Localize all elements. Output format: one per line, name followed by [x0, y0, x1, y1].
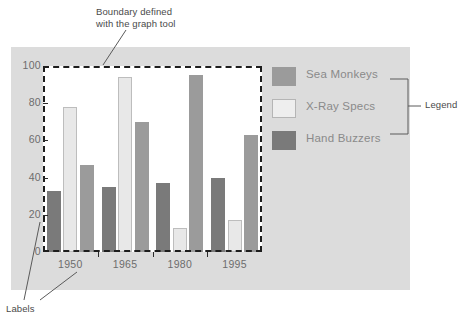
y-tick-label: 20 — [15, 208, 41, 220]
annotation-labels-text: Labels — [6, 303, 35, 315]
y-axis: 020406080100 — [9, 0, 41, 325]
chart-figure: 020406080100 1950196519801995 Sea Monkey… — [0, 0, 471, 325]
y-tick-label: 100 — [15, 59, 41, 71]
bar — [156, 183, 170, 252]
bar-series-container — [43, 66, 262, 252]
bar — [63, 107, 77, 252]
x-tick-mark — [207, 252, 208, 257]
bar — [228, 220, 242, 252]
y-tick-mark — [43, 103, 48, 104]
bar — [102, 187, 116, 252]
bar — [47, 191, 61, 252]
legend-swatch-xray-specs — [272, 99, 296, 118]
y-tick-label: 80 — [15, 96, 41, 108]
y-tick-mark — [43, 140, 48, 141]
legend-item: Hand Buzzers — [272, 130, 402, 154]
x-tick-label: 1950 — [47, 258, 93, 270]
bar — [118, 77, 132, 252]
x-tick-label: 1995 — [212, 258, 258, 270]
legend-label: X-Ray Specs — [306, 100, 375, 112]
bar — [211, 178, 225, 252]
x-tick-label: 1980 — [157, 258, 203, 270]
x-tick-mark — [153, 252, 154, 257]
legend-swatch-sea-monkeys — [272, 67, 296, 86]
y-tick-mark — [43, 215, 48, 216]
bar — [244, 135, 258, 252]
y-tick-label: 0 — [15, 245, 41, 257]
legend-label: Sea Monkeys — [306, 68, 378, 80]
bar-group — [98, 66, 153, 252]
bar-group — [153, 66, 208, 252]
legend-block: Sea MonkeysX-Ray SpecsHand Buzzers — [272, 66, 402, 162]
bar — [80, 165, 94, 252]
legend-item: X-Ray Specs — [272, 98, 402, 122]
bar — [173, 228, 187, 252]
y-tick-label: 60 — [15, 133, 41, 145]
annotation-legend-text: Legend — [425, 99, 457, 111]
x-tick-label: 1965 — [102, 258, 148, 270]
legend-item: Sea Monkeys — [272, 66, 402, 90]
legend-label: Hand Buzzers — [306, 132, 381, 144]
bar — [189, 75, 203, 252]
x-tick-mark — [98, 252, 99, 257]
annotation-boundary-text: Boundary defined with the graph tool — [96, 6, 176, 29]
bar-group — [43, 66, 98, 252]
y-tick-label: 40 — [15, 171, 41, 183]
bar — [135, 122, 149, 252]
bar-group — [207, 66, 262, 252]
y-tick-mark — [43, 178, 48, 179]
legend-swatch-hand-buzzers — [272, 131, 296, 150]
